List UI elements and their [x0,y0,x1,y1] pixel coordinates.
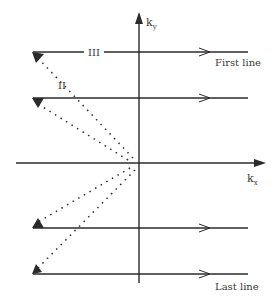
segment-III-label: III [88,47,100,58]
kx-axis-arrow-icon [254,159,266,167]
segment-II-label: II [58,80,66,91]
trajectory-to-second-line [38,104,128,160]
arrowhead-second-line-icon [32,98,44,108]
first-line [33,48,248,56]
trajectory-to-first-line [36,56,133,158]
arrowhead-third-line-icon [32,218,44,228]
trajectory-to-last-line [37,170,135,269]
ky-label: ky [146,16,157,31]
last-line-label: Last line [215,281,259,292]
first-line-label: First line [215,57,261,68]
ky-axis [135,12,143,283]
k-space-diagram: ky kx III II First line Last line [0,0,275,302]
arrowhead-last-line-icon [32,264,42,274]
kx-label: kx [247,172,258,187]
last-line [33,270,248,278]
third-line [33,224,248,232]
kx-axis [16,159,266,167]
trajectory-to-third-line [38,168,130,222]
arrowhead-first-line-icon [32,52,44,63]
second-line [33,94,248,102]
ky-axis-arrow-icon [135,12,143,24]
